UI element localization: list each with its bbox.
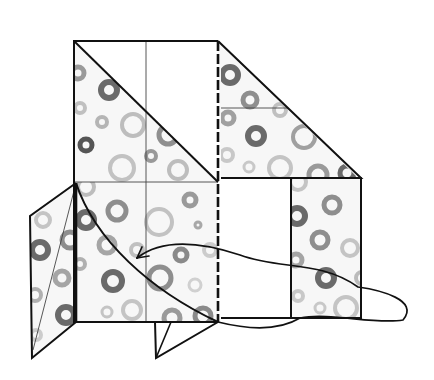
origami-diagram: Origami fold step bbox=[0, 0, 434, 380]
right-blank-panel bbox=[221, 178, 291, 318]
diagram-canvas bbox=[0, 0, 434, 380]
